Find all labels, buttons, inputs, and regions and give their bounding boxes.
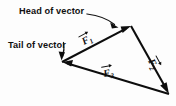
vector-f1-arrowhead bbox=[121, 26, 131, 33]
vector-f1-subscript: 1 bbox=[88, 37, 95, 46]
vector-f1 bbox=[62, 26, 131, 62]
tail-of-vector-label: Tail of vector bbox=[8, 40, 66, 50]
vector-f3-overarrow-head bbox=[109, 64, 113, 68]
vector-f3-label: F 3 bbox=[101, 63, 116, 81]
head-leader bbox=[87, 14, 119, 29]
figure-canvas: Head of vector Tail of vector F 1 F 2 F … bbox=[0, 0, 176, 106]
head-of-vector-label: Head of vector bbox=[19, 6, 85, 16]
vector-f2-label: F 2 bbox=[143, 55, 163, 73]
tail-leader-arrowhead bbox=[59, 51, 65, 60]
vector-f3-subscript: 3 bbox=[109, 72, 115, 81]
vector-f1-shaft bbox=[62, 29, 126, 62]
vector-f2-shaft bbox=[131, 26, 166, 89]
vector-triangle-diagram: Head of vector Tail of vector F 1 F 2 F … bbox=[0, 0, 176, 106]
head-leader-arrowhead bbox=[110, 23, 118, 29]
